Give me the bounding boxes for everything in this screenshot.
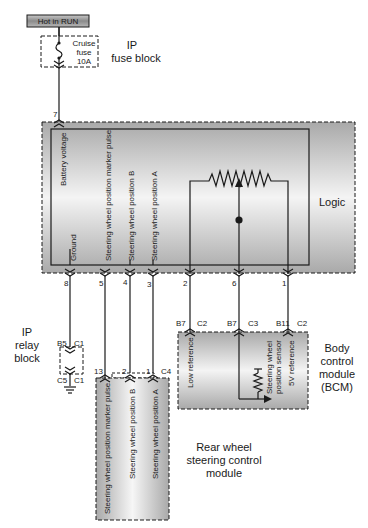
ip-relay-label-2: relay (15, 339, 39, 351)
steering-wheel-position-sensor-module: 7 Logic Battery voltage Ground Steering … (42, 110, 355, 274)
rear-module-label-1: Rear wheel (196, 441, 252, 453)
body-control-module: B7 C2 B7 C3 B11 C2 Low reference 5V refe… (176, 319, 308, 409)
rear-pin-13: 13 (94, 367, 103, 376)
ip-fuse-block-label-1: IP (127, 39, 137, 51)
battery-voltage-label: Battery voltage (59, 132, 68, 186)
bcm-connector-signal: C3 (248, 319, 259, 328)
pin-8: 8 (64, 279, 69, 288)
bcm-pin-signal: B7 (227, 319, 237, 328)
relay-bottom-pin: C5 (57, 376, 68, 385)
bcm-label-3: module (319, 368, 355, 380)
ground-symbol-icon (64, 387, 76, 393)
ip-relay-block: B5 C1 C5 C1 (57, 339, 85, 393)
rear-pin-1: 1 (146, 367, 151, 376)
sensor-label-2: position sensor (274, 340, 283, 394)
ip-fuse-block: Cruise fuse 10A (41, 27, 98, 68)
relay-top-pin: B5 (57, 339, 67, 348)
pin-3: 3 (147, 280, 152, 289)
bcm-connector-5v-ref: C2 (297, 319, 308, 328)
relay-top-connector: C1 (74, 339, 85, 348)
5v-reference-label: 5V reference (287, 340, 296, 386)
position-b-label: Steering wheel position B (127, 171, 136, 261)
pin-1: 1 (282, 279, 287, 288)
bcm-connector-low-ref: C2 (197, 319, 208, 328)
rear-module-label-3: module (206, 467, 242, 479)
fuse-label-2: fuse (76, 48, 92, 57)
bcm-label-2: control (320, 355, 353, 367)
hot-in-run-label: Hot in RUN (38, 17, 79, 26)
pin-7: 7 (53, 110, 58, 119)
rear-module-label-2: steering control (186, 454, 261, 466)
bcm-pin-low-ref: B7 (176, 319, 186, 328)
pin-6: 6 (232, 279, 237, 288)
bcm-pin-5v-ref: B11 (276, 319, 290, 328)
rear-position-a-label: Steering wheel position A (151, 389, 160, 480)
bcm-label-4: (BCM) (321, 381, 353, 393)
hot-in-run-source: Hot in RUN (27, 15, 89, 27)
bcm-label-1: Body (324, 342, 350, 354)
rear-position-b-label: Steering wheel position B (128, 389, 137, 479)
pin-4: 4 (123, 278, 128, 287)
pin-5: 5 (99, 279, 104, 288)
ip-relay-label-1: IP (22, 326, 32, 338)
rear-marker-pulse-label: Steering wheel position marker pulse (103, 382, 112, 514)
sensor-label-1: Steering wheel (265, 341, 274, 394)
fuse-label-1: Cruise (72, 39, 96, 48)
marker-pulse-label: Steering wheel position marker pulse (104, 129, 113, 261)
logic-label: Logic (319, 196, 346, 208)
rear-connector-c4: C4 (161, 367, 172, 376)
fuse-label-3: 10A (77, 57, 92, 66)
ip-relay-label-3: block (14, 352, 40, 364)
wiring-diagram: Hot in RUN Cruise fuse 10A IP fuse block… (0, 0, 368, 528)
rear-pin-2: 2 (122, 367, 127, 376)
rear-wheel-steering-control-module: 13 2 1 C4 Steering wheel position marker… (94, 367, 172, 520)
relay-bottom-connector: C1 (74, 376, 85, 385)
position-a-label: Steering wheel position A (150, 171, 159, 262)
low-reference-label: Low reference (186, 337, 195, 388)
ip-fuse-block-label-2: fuse block (111, 52, 161, 64)
pin-2: 2 (183, 279, 188, 288)
